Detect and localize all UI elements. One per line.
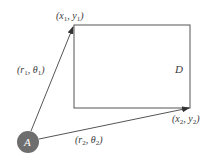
node-a-label: A [24,137,31,148]
region-d-rectangle [74,25,190,108]
paren-close: ) [41,64,44,75]
point-label-x1-y1: (x1, y1) [56,11,84,23]
region-label-d: D [175,64,183,75]
diagram-canvas [0,0,215,160]
vector-arrow-r2-theta2 [39,108,189,139]
paren-close: ) [80,10,83,21]
paren-close: ) [196,113,199,124]
vector-label-r1-theta1: (r1, θ1) [17,65,45,77]
point-label-x2-y2: (x2, y2) [172,114,200,126]
paren-close: ) [99,134,102,145]
vector-arrow-r1-theta1 [31,27,73,131]
vector-label-r2-theta2: (r2, θ2) [75,135,103,147]
